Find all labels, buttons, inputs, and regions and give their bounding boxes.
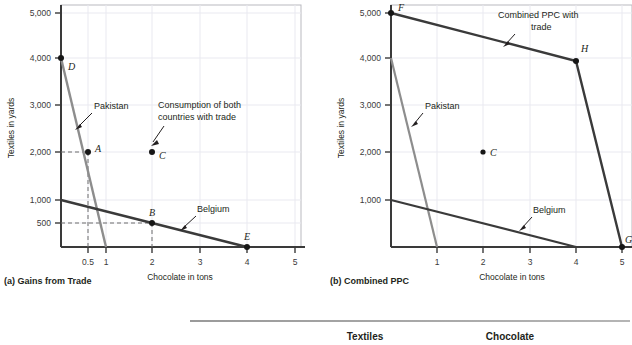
annotation-belgium-a: Belgium xyxy=(197,204,230,214)
data-point-H xyxy=(573,58,579,64)
x-tick-label-5-a: 5 xyxy=(293,257,298,267)
x-axis-title-b: Chocolate in tons xyxy=(479,272,545,282)
point-label-B: B xyxy=(149,207,155,218)
table-col-header-textiles: Textiles xyxy=(295,331,435,342)
x-tick-label-4-a: 4 xyxy=(245,257,250,267)
data-point-B xyxy=(149,220,155,226)
point-label-E: E xyxy=(243,231,250,242)
x-tick-label-0point5-a: 0.5 xyxy=(82,257,94,267)
y-tick-label-5000-a: 5,000 xyxy=(30,8,52,18)
y-axis-title-a: Textiles in yards xyxy=(6,98,16,158)
annotation-pakistan-b: Pakistan xyxy=(425,101,460,111)
caption-panel-b: (b) Combined PPC xyxy=(330,276,409,286)
point-label-D: D xyxy=(67,61,76,72)
chart-b-svg: 5,000 4,000 3,000 2,000 1,000 1 2 3 4 5 … xyxy=(320,0,632,300)
y-axis-title-b: Textiles in yards xyxy=(336,98,346,158)
y-tick-label-500-a: 500 xyxy=(37,218,51,228)
x-tick-label-3-b: 3 xyxy=(528,257,533,267)
annotation-combined-line1: Combined PPC with xyxy=(498,10,579,20)
data-point-A xyxy=(85,149,91,155)
y-tick-label-3000-b: 3,000 xyxy=(360,100,382,110)
x-tick-label-1-b: 1 xyxy=(435,257,440,267)
table-col-header-blank xyxy=(190,331,295,342)
x-tick-label-5-b: 5 xyxy=(620,257,625,267)
y-tick-label-4000-b: 4,000 xyxy=(360,53,382,63)
panel-a-gains-from-trade: 5,000 4,000 3,000 2,000 1,000 500 0.5 1 … xyxy=(0,0,320,300)
point-label-A: A xyxy=(94,143,102,154)
y-tick-label-3000-a: 3,000 xyxy=(30,100,52,110)
y-tick-label-5000-b: 5,000 xyxy=(360,8,382,18)
y-tick-label-4000-a: 4,000 xyxy=(30,53,52,63)
panel-b-combined-ppc: 5,000 4,000 3,000 2,000 1,000 1 2 3 4 5 … xyxy=(320,0,632,300)
point-label-H: H xyxy=(580,43,589,54)
x-tick-label-2-b: 2 xyxy=(481,257,486,267)
x-tick-label-3-a: 3 xyxy=(198,257,203,267)
data-point-F xyxy=(388,10,394,16)
point-label-F: F xyxy=(397,2,405,13)
data-point-C-a xyxy=(149,149,155,155)
x-tick-label-1-a: 1 xyxy=(104,257,109,267)
annotation-consumption-line1: Consumption of both xyxy=(158,100,241,110)
point-label-C-a: C xyxy=(159,150,166,161)
x-tick-label-4-b: 4 xyxy=(574,257,579,267)
annotation-consumption-line2: countries with trade xyxy=(158,112,236,122)
y-tick-label-2000-a: 2,000 xyxy=(30,147,52,157)
x-tick-label-2-a: 2 xyxy=(150,257,155,267)
annotation-belgium-b: Belgium xyxy=(533,205,566,215)
economics-figure: 5,000 4,000 3,000 2,000 1,000 500 0.5 1 … xyxy=(0,0,632,345)
point-label-G: G xyxy=(625,234,632,245)
caption-panel-a: (a) Gains from Trade xyxy=(4,276,92,286)
y-tick-label-1000-a: 1,000 xyxy=(30,195,52,205)
table-col-header-chocolate: Chocolate xyxy=(435,331,585,342)
data-point-E xyxy=(244,244,250,250)
table-top-rule xyxy=(190,320,630,322)
annotation-pakistan-a: Pakistan xyxy=(94,101,129,111)
x-axis-title-a: Chocolate in tons xyxy=(147,272,213,282)
y-tick-label-2000-b: 2,000 xyxy=(360,147,382,157)
data-point-C-b xyxy=(480,149,485,154)
table-header-row: Textiles Chocolate xyxy=(190,331,630,342)
data-point-D xyxy=(58,55,64,61)
y-tick-label-1000-b: 1,000 xyxy=(360,195,382,205)
point-label-C-b: C xyxy=(490,147,497,158)
chart-a-svg: 5,000 4,000 3,000 2,000 1,000 500 0.5 1 … xyxy=(0,0,320,300)
annotation-combined-line2: trade xyxy=(531,22,552,32)
